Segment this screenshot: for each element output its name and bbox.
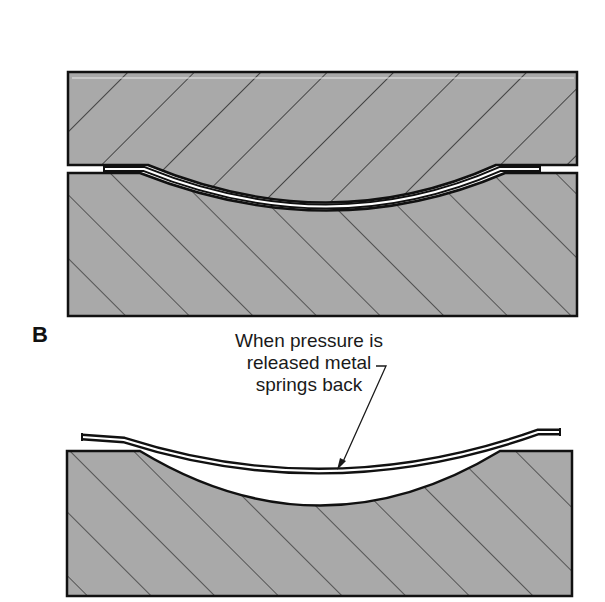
callout-line-3: springs back [220,374,398,396]
section-label-b: B [32,322,48,348]
callout-line-1: When pressure is [220,330,398,352]
forming-die-diagram [0,0,605,602]
callout-line-2: released metal [220,352,398,374]
springback-callout: When pressure is released metal springs … [220,330,398,396]
